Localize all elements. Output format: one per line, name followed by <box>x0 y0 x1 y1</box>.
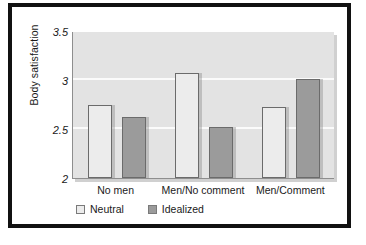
x-axis-category-labels: No menMen/No commentMen/Comment <box>72 184 334 200</box>
figure-inner: Body satisfaction 22.533.5 No menMen/No … <box>12 7 347 224</box>
bars-layer <box>73 32 334 178</box>
legend-item-idealized: Idealized <box>148 203 204 215</box>
bar-idealized-1 <box>209 127 233 178</box>
legend-label-idealized: Idealized <box>162 203 204 215</box>
legend-label-neutral: Neutral <box>90 203 124 215</box>
bar-neutral-2 <box>262 107 286 178</box>
figure-frame: Body satisfaction 22.533.5 No menMen/No … <box>8 3 351 228</box>
y-axis-tick-3: 3 <box>42 75 68 87</box>
y-axis-tick-2: 2 <box>42 173 68 185</box>
x-axis-label-2: Men/Comment <box>256 184 325 196</box>
chart-legend: NeutralIdealized <box>76 203 204 215</box>
bar-neutral-0 <box>88 105 112 178</box>
plot-area <box>72 32 334 179</box>
y-axis-tick-2.5: 2.5 <box>42 124 68 136</box>
legend-swatch-icon-neutral <box>76 205 85 214</box>
y-axis-tick-labels: 22.533.5 <box>34 7 68 224</box>
y-axis-tick-3.5: 3.5 <box>42 26 68 38</box>
bar-neutral-1 <box>175 73 199 178</box>
x-axis-label-0: No men <box>97 184 134 196</box>
legend-swatch-icon-idealized <box>148 205 157 214</box>
bar-idealized-0 <box>122 117 146 178</box>
legend-item-neutral: Neutral <box>76 203 124 215</box>
x-axis-label-1: Men/No comment <box>162 184 245 196</box>
bar-idealized-2 <box>296 79 320 178</box>
